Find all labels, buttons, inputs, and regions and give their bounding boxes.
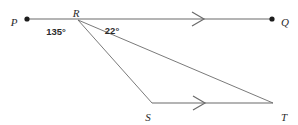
point-label-s: S bbox=[145, 111, 151, 123]
parallel-marks-group bbox=[192, 12, 205, 110]
angle-label-135: 135° bbox=[46, 26, 66, 37]
geometry-canvas: P R Q S T 135° 22° bbox=[0, 0, 298, 125]
point-label-r: R bbox=[72, 7, 80, 19]
geometry-diagram: P R Q S T 135° 22° bbox=[0, 0, 298, 125]
point-label-q: Q bbox=[281, 16, 289, 28]
angle-labels-group: 135° 22° bbox=[46, 25, 119, 37]
point-q-dot bbox=[269, 16, 274, 21]
point-p-dot bbox=[24, 16, 29, 21]
angle-label-22: 22° bbox=[105, 25, 120, 36]
point-labels-group: P R Q S T bbox=[10, 7, 289, 123]
point-label-t: T bbox=[281, 111, 288, 123]
point-label-p: P bbox=[10, 16, 18, 28]
